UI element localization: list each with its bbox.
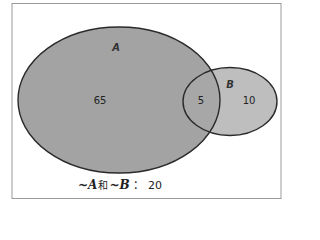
set-b-label: B (226, 79, 234, 90)
set-a-label: A (111, 42, 120, 53)
separator: ： (133, 179, 144, 192)
conjunction: 和 (98, 180, 108, 191)
set-b-only-count: 10 (243, 95, 256, 106)
not-a-label: ~A (78, 178, 97, 192)
not-b-label: ~B (109, 178, 129, 192)
outside-count-caption: ~A和~B ：20 (78, 176, 162, 192)
intersection-count: 5 (198, 95, 204, 106)
set-a-only-count: 65 (94, 95, 107, 106)
outside-count: 20 (148, 179, 162, 192)
